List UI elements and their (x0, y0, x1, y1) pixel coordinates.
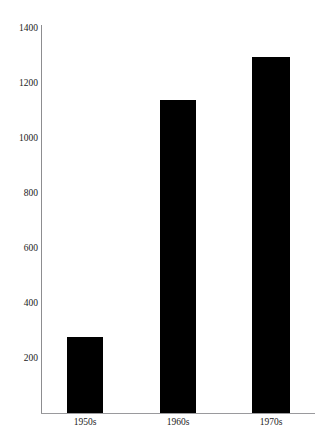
x-tick-label: 1950s (55, 416, 115, 428)
y-tick-label: 200 (2, 353, 38, 363)
x-tick-label: 1970s (241, 416, 301, 428)
plot-area (41, 25, 315, 413)
y-tick-label: 800 (2, 188, 38, 198)
bar (67, 337, 103, 413)
x-axis-tick-labels: 1950s1960s1970s (0, 416, 331, 436)
y-tick-label: 1000 (2, 133, 38, 143)
bar (252, 57, 290, 413)
y-tick-label: 600 (2, 243, 38, 253)
y-tick-label: 1200 (2, 78, 38, 88)
y-tick-label: 400 (2, 298, 38, 308)
y-axis-tick-labels: 200400600800100012001400 (0, 0, 38, 440)
x-axis-line (41, 413, 315, 414)
bar (160, 100, 196, 414)
clipped-header-text (0, 0, 331, 8)
x-tick-label: 1960s (148, 416, 208, 428)
y-tick-label: 1400 (2, 23, 38, 33)
bar-chart: 200400600800100012001400 1950s1960s1970s (0, 0, 331, 440)
